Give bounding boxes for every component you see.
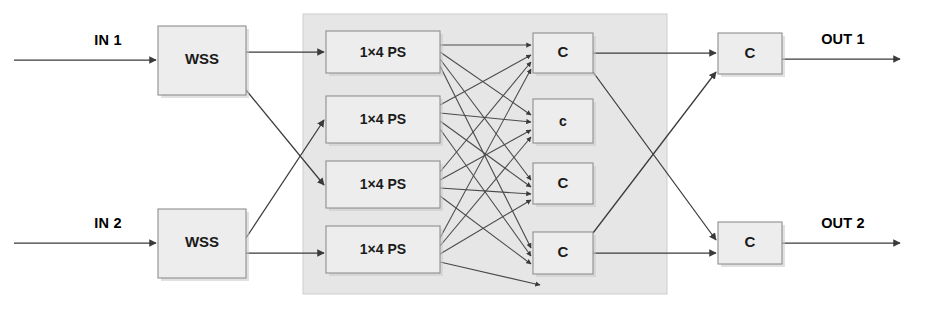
ps-box-1-label: 1×4 PS <box>360 44 406 60</box>
ps-box-4[interactable]: 1×4 PS <box>326 226 443 276</box>
combiner-box-1[interactable]: C <box>533 33 596 76</box>
wss-box-1-label: WSS <box>185 50 219 67</box>
ps-box-3[interactable]: 1×4 PS <box>326 161 443 211</box>
ps-box-3-label: 1×4 PS <box>360 176 406 192</box>
output-combiner-box-2-label: C <box>745 233 756 250</box>
combiner-box-3[interactable]: C <box>533 163 596 207</box>
combiner-box-2-label: c <box>559 113 567 129</box>
combiner-box-3-label: C <box>558 174 569 191</box>
diagram-canvas: WSS WSS 1×4 PS 1×4 PS 1×4 PS 1×4 PS <box>0 0 932 310</box>
wss-box-1[interactable]: WSS <box>158 26 249 98</box>
ps-box-4-label: 1×4 PS <box>360 241 406 257</box>
output-label-out1: OUT 1 <box>821 31 865 47</box>
input-label-in1: IN 1 <box>94 32 121 48</box>
combiner-box-2[interactable]: c <box>533 99 596 146</box>
ps-box-2-label: 1×4 PS <box>360 111 406 127</box>
wss-box-2[interactable]: WSS <box>158 209 249 281</box>
ps-box-1[interactable]: 1×4 PS <box>326 31 443 76</box>
output-label-out2: OUT 2 <box>821 215 865 231</box>
output-combiner-box-2[interactable]: C <box>718 222 785 267</box>
output-combiner-box-1[interactable]: C <box>718 33 785 77</box>
combiner-box-4[interactable]: C <box>533 232 596 277</box>
wss-box-2-label: WSS <box>185 233 219 250</box>
ps-box-2[interactable]: 1×4 PS <box>326 96 443 146</box>
input-label-in2: IN 2 <box>94 215 121 231</box>
output-combiner-box-1-label: C <box>745 44 756 61</box>
combiner-box-1-label: C <box>558 43 569 60</box>
diagram-svg: WSS WSS 1×4 PS 1×4 PS 1×4 PS 1×4 PS <box>0 0 932 310</box>
combiner-box-4-label: C <box>558 243 569 260</box>
